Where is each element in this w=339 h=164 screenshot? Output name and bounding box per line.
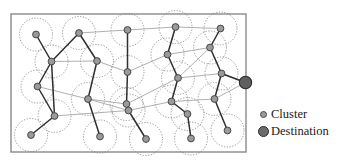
destination-node (239, 76, 251, 88)
destination-dot-icon (258, 126, 269, 137)
cluster-node (168, 98, 175, 105)
cluster-dot-icon (260, 111, 267, 118)
legend-label-destination: Destination (271, 125, 329, 138)
cluster-node (76, 30, 83, 37)
cluster-node (48, 58, 55, 65)
cluster-node (211, 96, 218, 103)
legend-item-cluster: Cluster (258, 106, 338, 123)
legend-label-cluster: Cluster (271, 108, 307, 121)
cluster-node (188, 135, 195, 142)
cluster-node (28, 132, 35, 139)
cluster-node (218, 70, 225, 77)
legend-item-destination: Destination (258, 123, 338, 140)
cluster-node (85, 96, 92, 103)
cluster-node (184, 111, 191, 118)
cluster-node (172, 24, 179, 31)
cluster-node (124, 27, 131, 34)
cluster-node (207, 44, 214, 51)
cluster-node (124, 69, 131, 76)
cluster-node (125, 107, 132, 114)
cluster-node (224, 127, 231, 134)
cluster-node (97, 133, 104, 140)
legend: Cluster Destination (258, 106, 338, 146)
network-link (52, 61, 98, 62)
cluster-node (123, 101, 130, 108)
cluster-node (34, 83, 41, 90)
cluster-node (217, 25, 224, 32)
cluster-node (143, 136, 150, 143)
cluster-node (164, 51, 171, 58)
network-link (127, 72, 128, 104)
cluster-node (33, 31, 40, 38)
cluster-node (51, 113, 58, 120)
cluster-node (175, 75, 182, 82)
figure-root: Cluster Destination (0, 0, 339, 164)
cluster-node (94, 58, 101, 65)
